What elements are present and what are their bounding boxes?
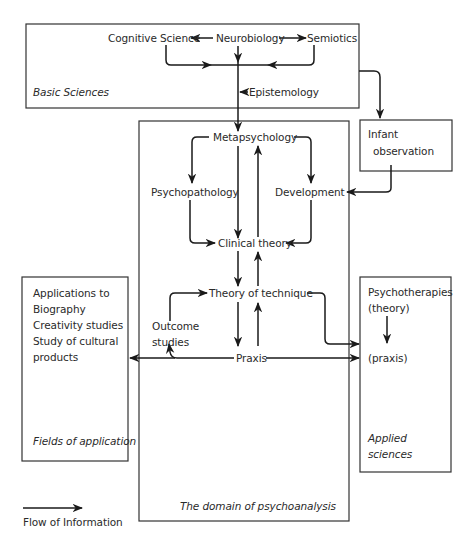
node-metapsychology: Metapsychology [213, 130, 297, 145]
domain-of-psychoanalysis-label: The domain of psychoanalysis [180, 499, 336, 514]
node-theory-of-technique: Theory of technique [209, 286, 313, 301]
arrow-meta-to-psychopathology [192, 137, 209, 183]
applied-sciences-line1: Applied [368, 431, 407, 446]
fields-item-5: products [33, 350, 78, 365]
basic-sciences-label: Basic Sciences [33, 85, 109, 100]
node-cognitive-science: Cognitive Science [108, 31, 200, 46]
node-clinical-theory: Clinical theory [218, 236, 292, 251]
legend-label: Flow of Information [23, 515, 123, 530]
arrow-outcome-to-technique [170, 293, 207, 321]
node-neurobiology: Neurobiology [216, 31, 285, 46]
applied-item-psychotherapies: Psychotherapies [368, 285, 453, 300]
applied-item-theory: (theory) [368, 301, 410, 316]
node-development: Development [275, 185, 345, 200]
arrow-basic-to-infant [359, 71, 380, 118]
arrow-infant-to-development [347, 165, 391, 192]
fields-item-1: Applications to [33, 286, 110, 301]
node-praxis: Praxis [236, 351, 267, 366]
arrow-psychopathology-to-clinical [190, 200, 215, 243]
arrow-cognitive-to-trunk [166, 45, 211, 65]
node-epistemology: Epistemology [249, 85, 319, 100]
node-psychopathology: Psychopathology [151, 185, 239, 200]
applied-sciences-line2: sciences [368, 447, 412, 462]
fields-item-3: Creativity studies [33, 318, 123, 333]
infant-observation-line2: observation [373, 144, 434, 159]
diagram-canvas [0, 0, 473, 545]
node-semiotics: Semiotics [307, 31, 357, 46]
arrow-technique-to-applied [307, 293, 359, 344]
node-outcome-studies-line2: studies [152, 335, 189, 350]
fields-item-4: Study of cultural [33, 334, 118, 349]
fields-item-2: Biography [33, 302, 86, 317]
infant-observation-line1: Infant [368, 127, 398, 142]
applied-item-praxis: (praxis) [368, 351, 407, 366]
node-outcome-studies-line1: Outcome [152, 319, 199, 334]
fields-of-application-label: Fields of application [33, 434, 136, 449]
arrow-semiotics-to-trunk [268, 45, 314, 65]
